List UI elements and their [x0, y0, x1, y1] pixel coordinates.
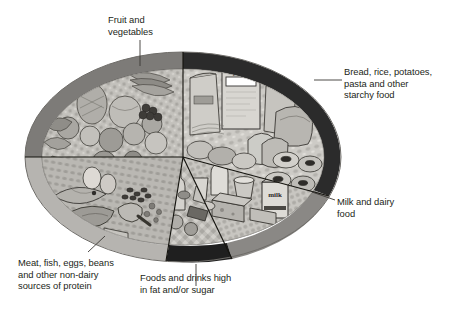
label-protein: Meat, fish, eggs, beans and other non-da…: [18, 257, 158, 292]
label-starchy-food: Bread, rice, potatoes, pasta and other s…: [344, 66, 464, 101]
label-fruit-vegetables: Fruit and vegetables: [108, 14, 218, 37]
eatwell-plate-diagram: Flakes: [0, 0, 465, 315]
rim-fat-sugar: [166, 243, 232, 262]
label-milk-dairy: Milk and dairy food: [337, 196, 447, 219]
label-fat-sugar: Foods and drinks high in fat and/or suga…: [140, 272, 265, 295]
milk-carton-label: milk: [268, 191, 282, 199]
